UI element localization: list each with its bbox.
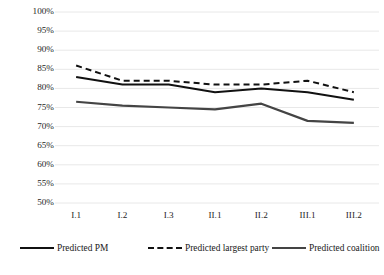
chart-plot-area — [0, 0, 384, 275]
legend-swatch-solid — [20, 243, 54, 253]
y-axis-tick-label: 80% — [8, 83, 54, 92]
series-line — [76, 102, 354, 123]
y-axis-tick-label: 90% — [8, 45, 54, 54]
x-axis: I.1I.2I.3II.1II.2III.1III.2 — [0, 206, 384, 226]
y-axis-tick-label: 70% — [8, 122, 54, 131]
line-chart: 50%55%60%65%70%75%80%85%90%95%100% I.1I.… — [0, 0, 384, 275]
y-axis-tick-label: 65% — [8, 141, 54, 150]
x-axis-tick-label: II.1 — [208, 210, 221, 220]
legend-label: Predicted PM — [57, 243, 108, 254]
x-axis-tick-label: I.1 — [71, 210, 81, 220]
y-axis-tick-label: 75% — [8, 103, 54, 112]
legend-item: Predicted largest party — [148, 240, 269, 256]
x-axis-tick-label: II.2 — [255, 210, 268, 220]
y-axis-tick-label: 60% — [8, 160, 54, 169]
legend-label: Predicted largest party — [185, 243, 269, 254]
x-axis-tick-label: I.2 — [117, 210, 127, 220]
y-axis: 50%55%60%65%70%75%80%85%90%95%100% — [0, 0, 54, 215]
legend-item: Predicted coalition — [272, 240, 380, 256]
x-axis-tick-label: I.3 — [164, 210, 174, 220]
y-axis-tick-label: 55% — [8, 179, 54, 188]
legend-item: Predicted PM — [20, 240, 108, 256]
legend-label: Predicted coalition — [309, 243, 380, 254]
legend-swatch-solid — [272, 243, 306, 253]
chart-legend: Predicted PMPredicted largest partyPredi… — [0, 240, 384, 260]
y-axis-tick-label: 95% — [8, 26, 54, 35]
y-axis-tick-label: 100% — [8, 7, 54, 16]
y-axis-tick-label: 85% — [8, 64, 54, 73]
x-axis-tick-label: III.2 — [346, 210, 362, 220]
x-axis-tick-label: III.1 — [300, 210, 316, 220]
legend-swatch-dashed — [148, 243, 182, 253]
